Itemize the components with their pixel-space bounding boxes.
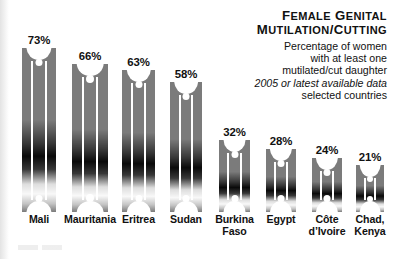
- bar-bottom-notch: [270, 201, 292, 212]
- bar-group: 73%: [22, 34, 56, 212]
- bar-top-dot: [36, 59, 43, 66]
- bar: [170, 82, 202, 212]
- bar-value-label: 73%: [28, 34, 51, 46]
- bar-stripe-left: [31, 61, 33, 200]
- bar-stripe-right: [374, 178, 376, 200]
- category-label-line: Burkina: [211, 214, 258, 226]
- bar-stripe-left: [179, 95, 181, 200]
- category-label: Côted’Ivoire: [304, 214, 350, 237]
- category-label: Eritrea: [114, 214, 163, 226]
- category-label: BurkinaFaso: [211, 214, 258, 237]
- bar-bottom-notch: [174, 201, 198, 212]
- bar-stripe-right: [286, 162, 288, 200]
- source-credit-illegible: [18, 245, 62, 250]
- bar-bottom-notch: [316, 201, 338, 212]
- category-label-line: Mauritania: [64, 214, 116, 226]
- bar-stripe-right: [240, 153, 242, 200]
- bar-top-dot: [135, 81, 142, 88]
- category-label: Mali: [14, 214, 64, 226]
- category-label-line: Chad,: [348, 214, 392, 226]
- bar-stripe-left: [274, 162, 276, 200]
- bar-top-dot: [324, 169, 331, 176]
- bar: [22, 48, 56, 212]
- bar-value-label: 21%: [359, 151, 382, 163]
- scan-edge-artifact: [0, 0, 9, 259]
- bar: [72, 64, 108, 212]
- bar-bottom-notch: [126, 201, 150, 212]
- title-initial-g: G: [335, 8, 346, 23]
- bar-value-label: 24%: [316, 144, 339, 156]
- bar-group: 21%: [356, 34, 384, 212]
- bar-stripe-right: [144, 83, 146, 200]
- bar-stripe-left: [364, 178, 366, 200]
- bar-stripe-right: [191, 95, 193, 200]
- bar-top-dot: [231, 151, 238, 158]
- category-label: Sudan: [162, 214, 210, 226]
- bar: [122, 70, 155, 212]
- bar-stripe-left: [82, 77, 84, 200]
- bar-chart-plot-area: 73%66%63%58%32%28%24%21%: [14, 34, 386, 212]
- bar-stripe-right: [332, 171, 334, 200]
- bar: [312, 158, 342, 212]
- category-label-line: d’Ivoire: [304, 226, 350, 238]
- infographic-root: FEMALE GENITAL MUTILATION/CUTTING Percen…: [0, 0, 393, 259]
- bar-bottom-notch: [360, 201, 381, 212]
- bar-stripe-left: [320, 171, 322, 200]
- bar-bottom-dot: [324, 195, 331, 202]
- bar-bottom-dot: [86, 194, 94, 202]
- bar-bottom-notch: [77, 201, 104, 212]
- bar: [356, 165, 384, 212]
- bar-bottom-notch: [223, 201, 246, 212]
- category-label-line: Faso: [211, 226, 258, 238]
- bar-group: 58%: [170, 34, 202, 212]
- bar-top-dot: [183, 93, 190, 100]
- category-label-line: Kenya: [348, 226, 392, 238]
- category-label-line: Sudan: [162, 214, 210, 226]
- category-label-line: Côte: [304, 214, 350, 226]
- title-smallcaps-emale: EMALE: [290, 10, 331, 22]
- bar-group: 63%: [122, 34, 155, 212]
- bar-bottom-dot: [183, 195, 190, 202]
- bar-top-dot: [367, 176, 373, 182]
- bar: [219, 140, 250, 212]
- category-label-line: Mali: [14, 214, 64, 226]
- bar-bottom-dot: [367, 196, 373, 202]
- bar-stripe-left: [227, 153, 229, 200]
- bar-bottom-dot: [278, 195, 285, 202]
- bar-group: 66%: [72, 34, 108, 212]
- bar: [266, 149, 296, 212]
- bar-top-dot: [278, 160, 285, 167]
- bar-top-dot: [86, 75, 94, 83]
- bar-bottom-notch: [26, 201, 51, 212]
- category-label-row: MaliMauritaniaEritreaSudanBurkinaFasoEgy…: [14, 214, 386, 254]
- category-label-line: Eritrea: [114, 214, 163, 226]
- bar-stripe-left: [131, 83, 133, 200]
- bar-stripe-right: [45, 61, 47, 200]
- bar-value-label: 28%: [270, 135, 293, 147]
- bar-value-label: 58%: [175, 68, 198, 80]
- category-label: Mauritania: [64, 214, 116, 226]
- bar-bottom-dot: [231, 195, 238, 202]
- category-label-line: Egypt: [258, 214, 304, 226]
- bar-bottom-dot: [36, 195, 43, 202]
- category-label: Chad,Kenya: [348, 214, 392, 237]
- bar-group: 28%: [266, 34, 296, 212]
- bar-bottom-dot: [135, 195, 142, 202]
- chart-title-line-1: FEMALE GENITAL: [211, 9, 387, 23]
- bar-value-label: 66%: [79, 50, 102, 62]
- title-smallcaps-enital: ENITAL: [346, 10, 387, 22]
- bar-group: 24%: [312, 34, 342, 212]
- category-label: Egypt: [258, 214, 304, 226]
- bar-group: 32%: [219, 34, 250, 212]
- bar-stripe-right: [96, 77, 98, 200]
- bar-value-label: 63%: [127, 56, 150, 68]
- bar-value-label: 32%: [223, 126, 246, 138]
